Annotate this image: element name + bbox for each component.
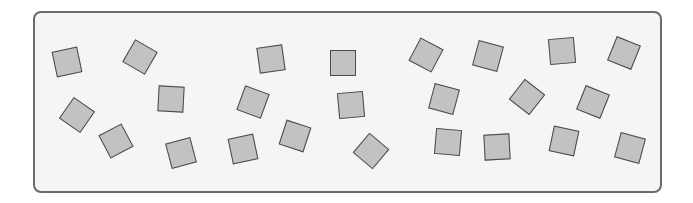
square-shape bbox=[548, 37, 576, 65]
square-shape bbox=[228, 134, 259, 165]
square-shape bbox=[483, 133, 510, 160]
square-shape bbox=[434, 128, 462, 156]
square-shape bbox=[52, 47, 83, 78]
square-shape bbox=[157, 85, 184, 112]
square-shape bbox=[256, 44, 285, 73]
square-shape bbox=[549, 126, 580, 157]
square-shape bbox=[330, 50, 356, 76]
square-shape bbox=[337, 91, 365, 119]
